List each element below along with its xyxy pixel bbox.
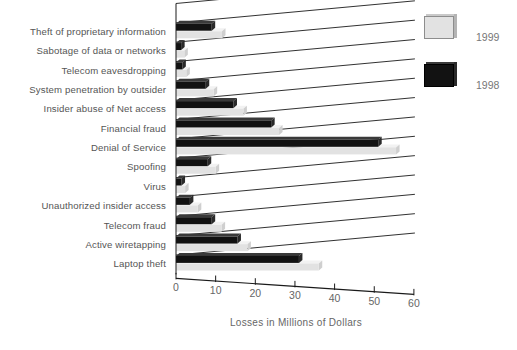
bar-1998 (176, 253, 302, 263)
x-axis-title: Losses in Millions of Dollars (176, 317, 416, 328)
x-tick-label: 60 (408, 297, 420, 309)
bar-front-face (176, 101, 233, 108)
legend-swatch-1998 (424, 62, 457, 88)
bar-top-face (176, 234, 241, 237)
bar-1998 (176, 79, 209, 89)
bar-front-face (176, 43, 181, 50)
bar-top-face (176, 79, 209, 82)
bar-front-face (176, 186, 185, 193)
bar-top-face (176, 156, 211, 159)
bar-front-face (176, 244, 247, 251)
bar-front-face (176, 147, 396, 154)
bar-1998 (176, 98, 237, 108)
bar-front-face (176, 70, 186, 77)
bar-front-face (176, 256, 299, 263)
bar-1998 (176, 214, 215, 224)
legend-item: 1999 (424, 14, 514, 54)
bar-front-face (176, 120, 271, 127)
bar-1998 (176, 137, 382, 147)
bar-front-face (176, 51, 184, 58)
perspective-rail (176, 40, 415, 62)
perspective-rail (176, 59, 415, 81)
x-tick-label: 30 (289, 289, 301, 301)
bar-front-face (176, 140, 378, 147)
bar-front-face (176, 109, 243, 116)
bar-1998 (176, 234, 241, 244)
legend-label: 1998 (476, 79, 499, 91)
x-tick-label: 40 (329, 292, 341, 304)
perspective-rail (176, 194, 415, 216)
bar-front-face (176, 217, 212, 224)
bar-1998 (176, 156, 211, 166)
legend-swatch-side-face (454, 62, 457, 86)
bar-top-face (176, 98, 237, 101)
legend-swatch-1999 (424, 14, 457, 40)
bar-front-face (176, 167, 216, 174)
bar-front-face (176, 62, 182, 69)
bar-front-face (176, 198, 190, 205)
bar-front-face (176, 159, 208, 166)
bar-top-face (176, 214, 215, 217)
chart-figure: Theft of proprietary informationSabotage… (0, 0, 517, 350)
x-tick-label: 50 (368, 295, 380, 307)
bar-front-face (176, 205, 198, 212)
bar-1998 (176, 21, 215, 31)
x-tick-label: 10 (210, 284, 222, 296)
bar-front-face (176, 82, 206, 89)
bar-1998 (176, 195, 193, 205)
perspective-rail (176, 1, 415, 23)
bar-front-face (176, 179, 182, 186)
legend-swatch-front-face (424, 64, 454, 87)
bar-top-face (176, 117, 275, 120)
bar-front-face (176, 128, 279, 135)
bar-front-face (176, 237, 237, 244)
bar-front-face (176, 31, 222, 38)
legend-label: 1999 (476, 31, 499, 43)
bar-front-face (176, 264, 319, 271)
legend-swatch-front-face (424, 16, 454, 39)
bar-front-face (176, 89, 214, 96)
bar-top-face (176, 137, 382, 140)
chart-legend: 19991998 (424, 14, 514, 104)
bar-top-face (176, 253, 302, 256)
legend-swatch-side-face (454, 14, 457, 38)
bar-top-face (176, 21, 215, 24)
x-tick-label: 20 (249, 287, 261, 299)
bar-front-face (176, 24, 212, 31)
perspective-rail (176, 0, 415, 3)
legend-item: 1998 (424, 62, 514, 102)
bar-front-face (176, 225, 222, 232)
perspective-rail (176, 175, 415, 197)
x-tick-label: 0 (173, 281, 179, 293)
bar-1998 (176, 117, 275, 127)
